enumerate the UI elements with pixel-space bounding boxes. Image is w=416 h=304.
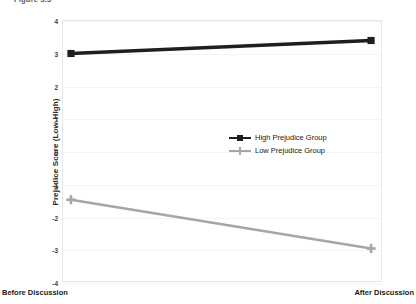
data-point-marker-square xyxy=(367,37,374,44)
plot-area: 43210-1-2-3-4 High Prejudice Group Low P… xyxy=(62,20,382,282)
y-axis-tick-label: 2 xyxy=(54,83,58,90)
x-axis-label-after-discussion: After Discussion xyxy=(354,288,414,297)
y-axis-tick-label: 1 xyxy=(54,116,58,123)
series-layer xyxy=(63,21,381,281)
data-point-marker-plus xyxy=(66,195,75,204)
legend-label-low-prejudice-group: Low Prejudice Group xyxy=(255,146,325,155)
legend-item-low-prejudice-group: Low Prejudice Group xyxy=(229,144,327,157)
data-point-marker-square xyxy=(67,50,74,57)
y-axis-tick-label: 0 xyxy=(54,149,58,156)
y-axis-tick-label: -3 xyxy=(52,247,58,254)
figure-caption: Figure 3.3 xyxy=(14,0,51,4)
legend-marker-plus-icon xyxy=(229,146,251,155)
x-axis-label-before-discussion: Before Discussion xyxy=(2,288,68,297)
chart-legend: High Prejudice Group Low Prejudice Group xyxy=(229,131,327,157)
y-axis-tick-label: 4 xyxy=(54,18,58,25)
legend-label-high-prejudice-group: High Prejudice Group xyxy=(255,133,327,142)
y-axis-tick-label: -1 xyxy=(52,181,58,188)
y-axis-tick-label: -4 xyxy=(52,280,58,287)
series-line xyxy=(71,41,371,54)
data-point-marker-plus xyxy=(366,244,375,253)
gridline xyxy=(63,283,381,284)
legend-marker-square-icon xyxy=(229,133,251,142)
y-axis-tick-label: -2 xyxy=(52,214,58,221)
legend-item-high-prejudice-group: High Prejudice Group xyxy=(229,131,327,144)
series-line xyxy=(71,200,371,249)
y-axis-tick-label: 3 xyxy=(54,50,58,57)
